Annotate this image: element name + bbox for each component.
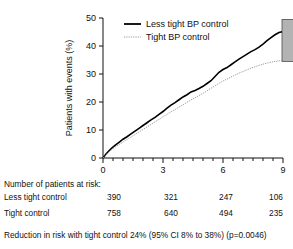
legend-label-tight: Tight BP control	[146, 32, 210, 42]
grey-confidence-box	[282, 19, 293, 61]
risk-value-tight-y6: 494	[212, 209, 240, 218]
table-row: Less tight control 390 321 247 106	[4, 193, 289, 209]
x-tick-label: 9	[280, 165, 285, 175]
series-line-tight	[103, 61, 282, 158]
y-tick-label: 50	[86, 13, 96, 23]
risk-value-less-tight-y6: 247	[212, 193, 240, 202]
series-line-less-tight	[103, 32, 282, 158]
risk-value-less-tight-y9: 106	[262, 193, 290, 202]
x-axis-title: Years from randomization	[142, 177, 244, 178]
x-tick-label: 3	[160, 165, 165, 175]
risk-table-title: Number of patients at risk:	[4, 180, 289, 189]
risk-value-tight-y0: 758	[100, 209, 128, 218]
kaplan-meier-figure: 010203040500369Years from randomizationP…	[0, 0, 293, 249]
risk-value-less-tight-y0: 390	[100, 193, 128, 202]
y-tick-label: 10	[86, 125, 96, 135]
legend-label-less-tight: Less tight BP control	[146, 19, 228, 29]
y-tick-label: 30	[86, 69, 96, 79]
x-tick-label: 6	[220, 165, 225, 175]
chart-area: 010203040500369Years from randomizationP…	[0, 0, 293, 178]
table-row: Tight control 758 640 494 235	[4, 209, 289, 225]
risk-value-tight-y3: 640	[157, 209, 185, 218]
risk-reduction-footnote: Reduction in risk with tight control 24%…	[4, 230, 293, 240]
risk-row-label-less-tight: Less tight control	[4, 193, 67, 202]
survival-curve-chart: 010203040500369Years from randomizationP…	[0, 0, 293, 178]
y-tick-label: 0	[91, 153, 96, 163]
risk-row-label-tight: Tight control	[4, 209, 49, 218]
y-axis-title: Patients with events (%)	[64, 40, 74, 137]
risk-value-tight-y9: 235	[262, 209, 290, 218]
risk-value-less-tight-y3: 321	[157, 193, 185, 202]
y-tick-label: 40	[86, 41, 96, 51]
y-tick-label: 20	[86, 97, 96, 107]
number-at-risk-table: Number of patients at risk: Less tight c…	[4, 180, 289, 225]
x-tick-label: 0	[100, 165, 105, 175]
